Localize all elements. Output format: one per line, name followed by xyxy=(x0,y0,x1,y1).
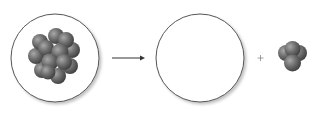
decay-diagram xyxy=(0,0,321,115)
parent-nucleus xyxy=(11,14,99,102)
plus-icon xyxy=(258,55,264,61)
alpha-particle-icon xyxy=(278,41,307,72)
daughter-nucleus xyxy=(156,14,244,102)
reaction-arrow-icon xyxy=(112,56,145,61)
